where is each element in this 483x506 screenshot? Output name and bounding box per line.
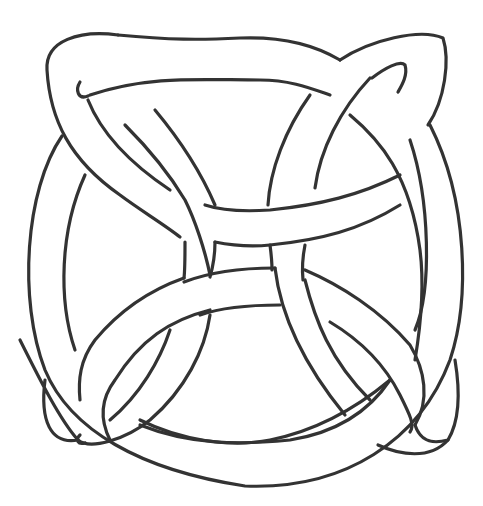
outer-ring [29,35,463,486]
loop-bottom-left [20,268,280,444]
loop-top-left [47,34,215,275]
celtic-knot-drawing [0,0,483,506]
loop-bottom-right [140,268,458,454]
knot-svg [0,0,483,506]
loop-top-right [205,34,446,360]
